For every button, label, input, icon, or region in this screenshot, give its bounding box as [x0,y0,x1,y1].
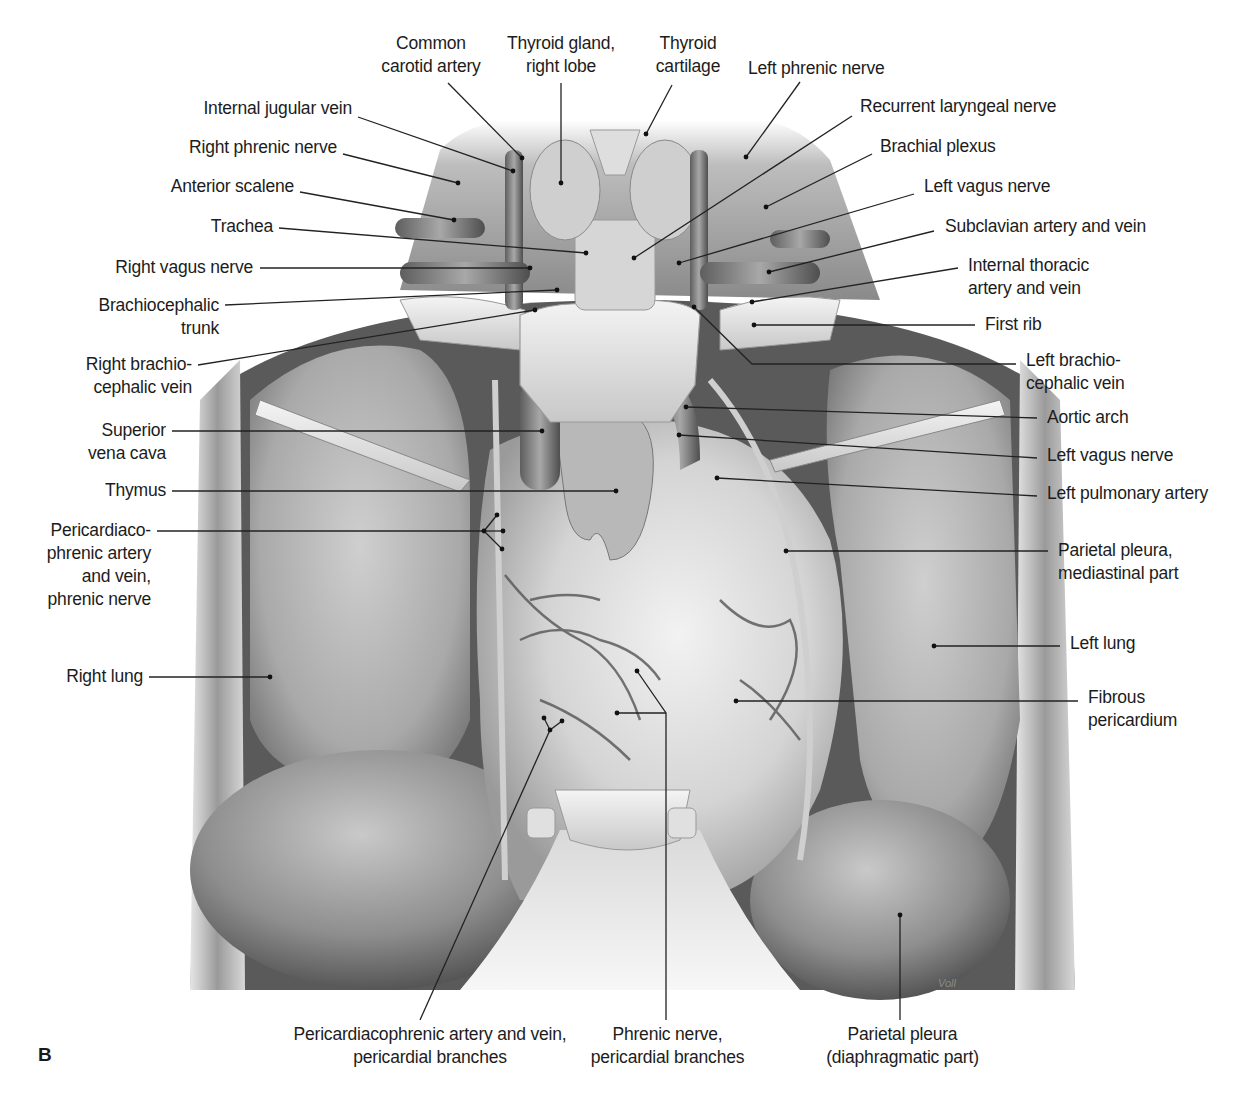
leader-dot [533,308,538,313]
leader-dot [677,433,682,438]
xiphoid-right-cartilage [668,808,696,838]
leader-dot [750,300,755,305]
label-fibrous-pericardium: Fibrouspericardium [1088,686,1198,732]
label-brachial-plexus: Brachial plexus [880,135,1020,158]
leader-dot [734,699,739,704]
label-line: right lobe [500,55,622,78]
label-line: Brachiocephalic [60,294,219,317]
leader-dot [555,288,560,293]
right-subclavian-upper [395,218,485,238]
leader-dot [677,261,682,266]
label-line: Pericardiaco- [20,519,151,542]
label-line: Common [376,32,486,55]
label-thyroid-gland-right-lobe: Thyroid gland,right lobe [500,32,622,78]
label-line: Parietal pleura, [1058,539,1208,562]
label-line: artery and vein [968,277,1118,300]
artist-signature: Voll [938,977,956,989]
label-left-vagus-nerve-upper: Left vagus nerve [924,175,1074,198]
label-line: Right brachio- [60,353,192,376]
label-line: Parietal pleura [815,1023,990,1046]
thyroid-left-lobe [630,140,700,240]
label-line: trunk [60,317,219,340]
label-aortic-arch: Aortic arch [1047,406,1157,429]
leader-dot [482,529,487,534]
leader-dot [764,205,769,210]
label-right-vagus-nerve: Right vagus nerve [90,256,253,279]
label-phrenic-nerve-pericardial-branches: Phrenic nerve,pericardial branches [580,1023,755,1069]
leader-dot [456,181,461,186]
label-line: Brachial plexus [880,135,1020,158]
leader-dot [784,549,789,554]
leader-dot [500,547,505,552]
leader-dot [560,719,565,724]
label-line: Left brachio- [1026,349,1156,372]
leader-dot [932,644,937,649]
leader-dot [744,155,749,160]
label-line: Right phrenic nerve [150,136,337,159]
label-internal-jugular-vein: Internal jugular vein [150,97,352,120]
label-line: Phrenic nerve, [580,1023,755,1046]
label-line: Thyroid gland, [500,32,622,55]
label-line: Left lung [1070,632,1170,655]
label-line: cephalic vein [1026,372,1156,395]
leader-dot [635,669,640,674]
leader-dot [501,529,506,534]
label-brachiocephalic-trunk: Brachiocephalictrunk [60,294,219,340]
label-thymus: Thymus [90,479,166,502]
label-recurrent-laryngeal-nerve: Recurrent laryngeal nerve [860,95,1080,118]
label-thyroid-cartilage: Thyroidcartilage [648,32,728,78]
label-left-lung: Left lung [1070,632,1170,655]
leader-dot [692,305,697,310]
leader-dot [542,716,547,721]
label-pericardiacophrenic-artery-and-vein-phrenic-nerve: Pericardiaco-phrenic arteryand vein,phre… [20,519,151,611]
left-subclavian-upper [770,230,830,248]
label-line: Aortic arch [1047,406,1157,429]
label-subclavian-artery-and-vein: Subclavian artery and vein [945,215,1165,238]
label-line: First rib [985,313,1065,336]
trachea-shape [575,220,655,310]
label-line: Internal jugular vein [150,97,352,120]
label-anterior-scalene: Anterior scalene [140,175,294,198]
label-line: Thyroid [648,32,728,55]
label-line: Internal thoracic [968,254,1118,277]
label-right-phrenic-nerve: Right phrenic nerve [150,136,337,159]
label-line: Left vagus nerve [924,175,1074,198]
leader-dot [632,256,637,261]
left-internal-jugular [690,150,708,310]
label-right-brachiocephalic-vein: Right brachio-cephalic vein [60,353,192,399]
label-line: phrenic artery [20,542,151,565]
leader-dot [615,711,620,716]
label-line: Recurrent laryngeal nerve [860,95,1080,118]
leader-dot [540,429,545,434]
label-line: pericardial branches [580,1046,755,1069]
label-left-brachiocephalic-vein: Left brachio-cephalic vein [1026,349,1156,395]
leader-dot [559,181,564,186]
label-line: carotid artery [376,55,486,78]
label-line: Left vagus nerve [1047,444,1197,467]
label-line: Thymus [90,479,166,502]
right-subclavian [400,262,530,284]
label-line: Left phrenic nerve [748,57,908,80]
label-line: cartilage [648,55,728,78]
label-line: phrenic nerve [20,588,151,611]
label-superior-vena-cava: Superiorvena cava [70,419,166,465]
label-left-vagus-nerve-lower: Left vagus nerve [1047,444,1197,467]
leader-dot [614,489,619,494]
label-line: Subclavian artery and vein [945,215,1165,238]
label-line: Right vagus nerve [90,256,253,279]
label-line: Fibrous [1088,686,1198,709]
thyroid-right-lobe [530,140,600,240]
label-trachea: Trachea [190,215,273,238]
xiphoid-left-cartilage [527,808,555,838]
label-line: Trachea [190,215,273,238]
label-common-carotid-artery: Commoncarotid artery [376,32,486,78]
leader-dot [452,218,457,223]
leader-dot [495,513,500,518]
leader-dot [684,405,689,410]
panel-letter: B [38,1044,52,1066]
label-left-pulmonary-artery: Left pulmonary artery [1047,482,1237,505]
left-subclavian [700,262,820,284]
label-line: Superior [70,419,166,442]
label-line: pericardial branches [265,1046,595,1069]
label-parietal-pleura-mediastinal-part: Parietal pleura,mediastinal part [1058,539,1208,585]
